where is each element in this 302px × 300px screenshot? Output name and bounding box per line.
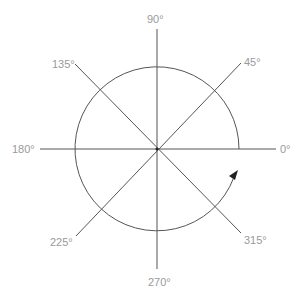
label-180: 180° bbox=[12, 143, 35, 155]
angle-diagram: 0° 45° 90° 135° 180° 225° 270° 315° bbox=[0, 0, 302, 300]
label-270: 270° bbox=[148, 276, 171, 288]
label-225: 225° bbox=[50, 236, 73, 248]
label-135: 135° bbox=[52, 58, 75, 70]
arrowhead-icon bbox=[229, 170, 238, 180]
label-45: 45° bbox=[244, 56, 261, 68]
label-90: 90° bbox=[147, 13, 164, 25]
label-0: 0° bbox=[280, 143, 291, 155]
label-315: 315° bbox=[244, 234, 267, 246]
center-point bbox=[156, 148, 159, 151]
